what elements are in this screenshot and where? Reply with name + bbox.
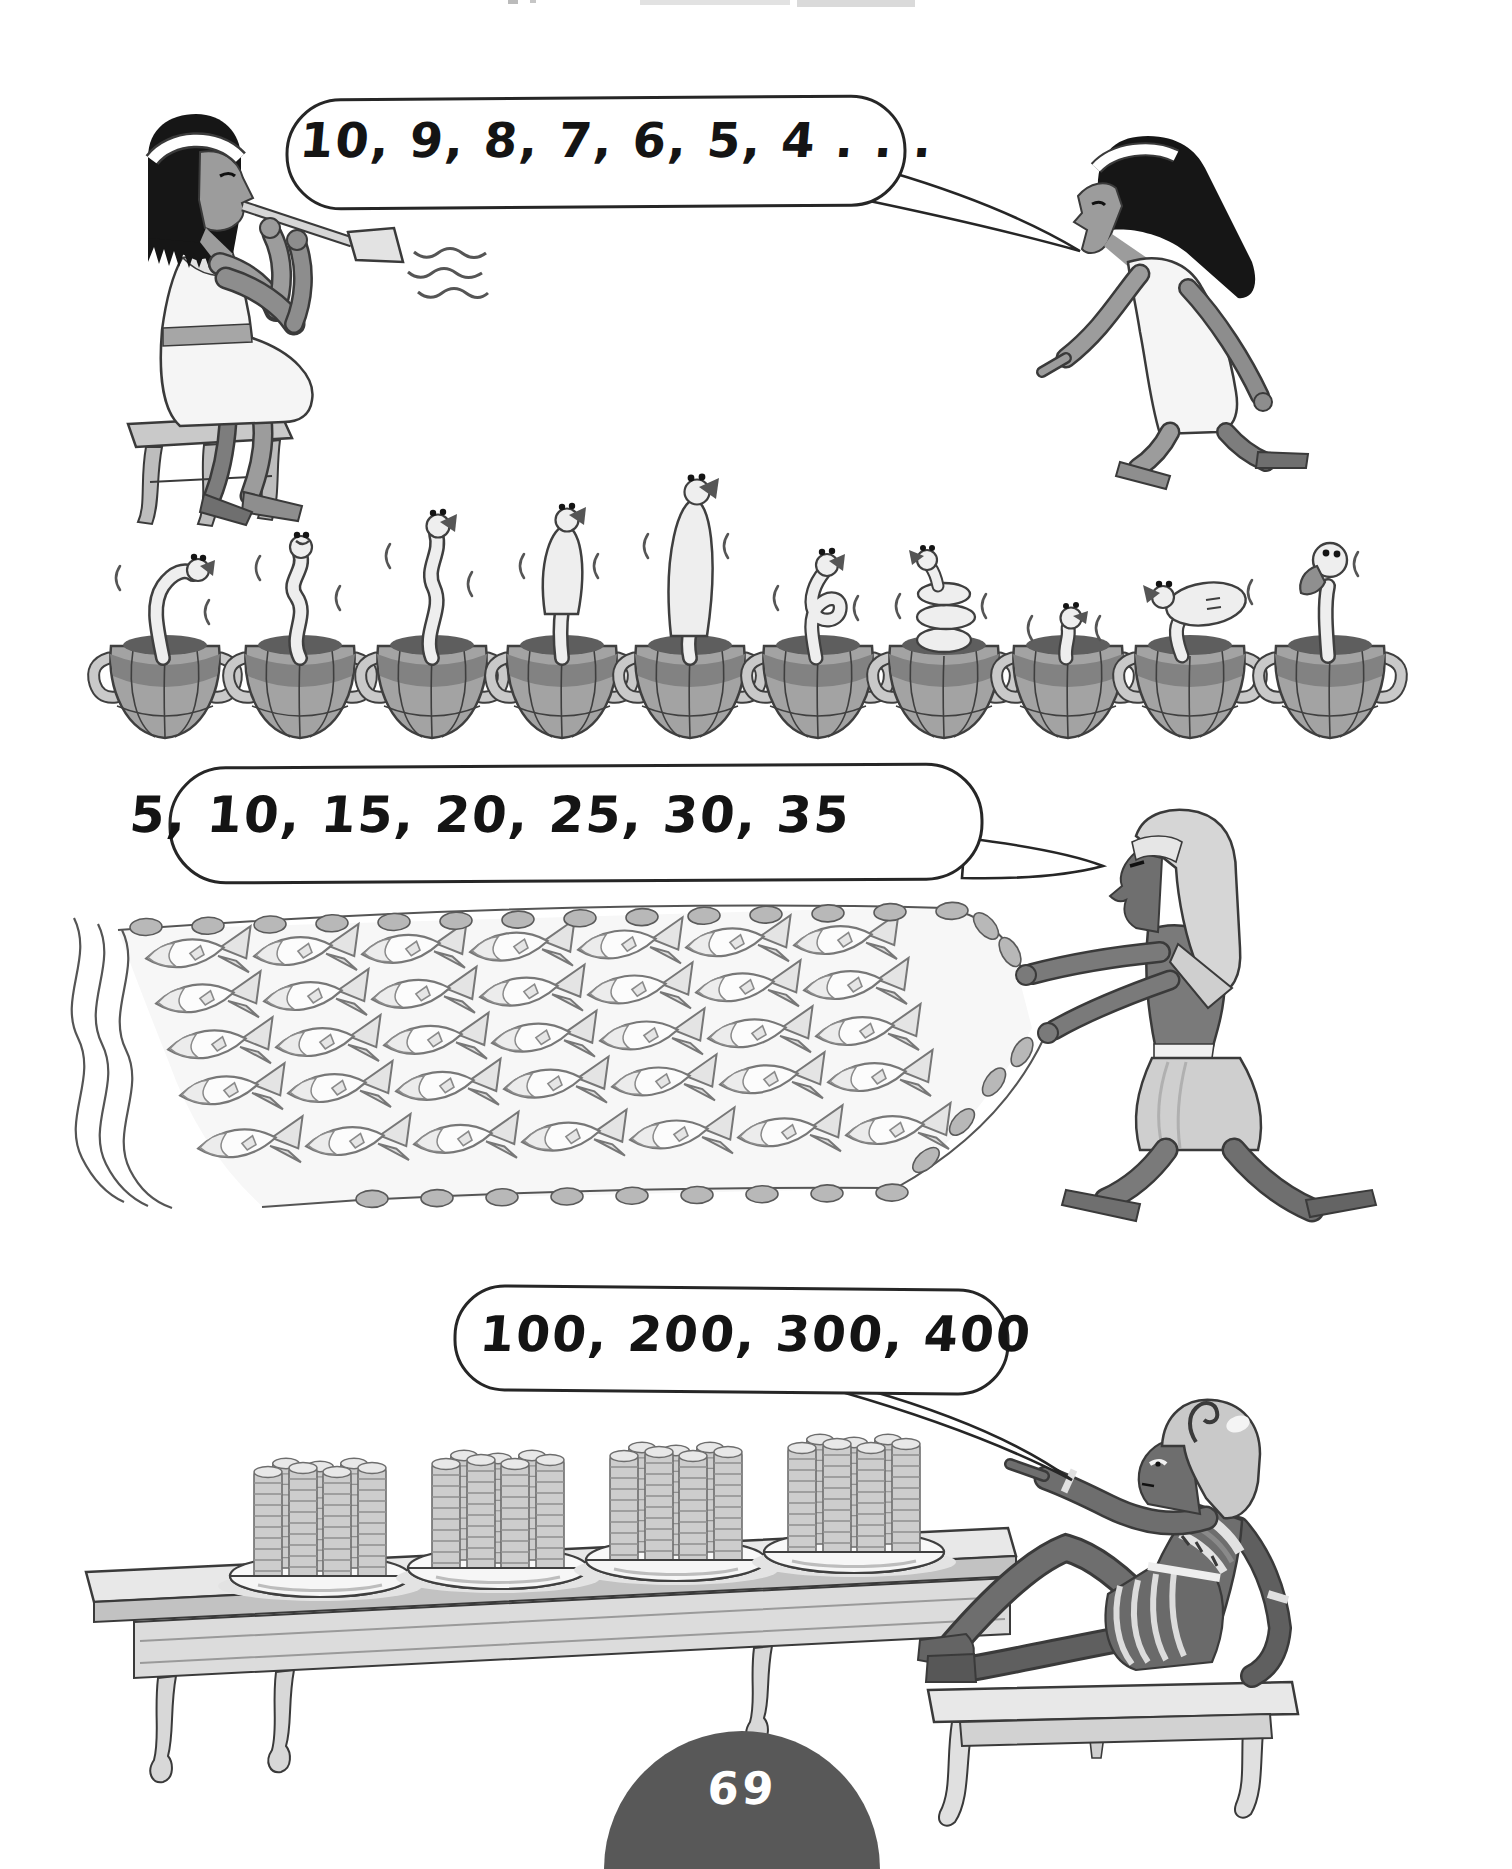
snake-basket-3 <box>361 509 504 738</box>
snake-basket-1 <box>94 554 237 738</box>
scan-artifacts <box>508 0 915 7</box>
flute-player-head <box>148 114 253 268</box>
counting-woman <box>1042 136 1308 489</box>
scene-snake-charmer <box>94 96 1402 738</box>
book-page: 10, 9, 8, 7, 6, 5, 4 . . . 5, 10, 15, 20… <box>0 0 1512 1869</box>
coin-plate <box>574 1442 778 1585</box>
bench <box>928 1682 1298 1826</box>
speech-bubble-1-text: 10, 9, 8, 7, 6, 5, 4 . . . <box>298 112 863 168</box>
snake-basket-4 <box>491 503 634 738</box>
snake-basket-2 <box>229 532 372 738</box>
snake-basket-10 <box>1259 543 1402 738</box>
coin-plate <box>752 1434 956 1577</box>
net-area <box>118 906 1032 1206</box>
illustration-canvas <box>0 0 1512 1869</box>
snake-basket-5 <box>619 474 762 738</box>
coin-plate <box>396 1450 600 1593</box>
speech-bubble-2-text: 5, 10, 15, 20, 25, 30, 35 <box>127 786 772 844</box>
coin-plate <box>218 1458 422 1601</box>
music-waves-icon <box>408 249 488 298</box>
speech-bubble-3-text: 100, 200, 300, 400 <box>478 1306 1003 1363</box>
snake-basket-7 <box>873 545 1016 738</box>
snake-basket-6 <box>747 548 890 738</box>
coin-plates <box>218 1434 956 1601</box>
page-number: 69 <box>680 1762 804 1815</box>
snake-basket-9 <box>1119 578 1262 738</box>
